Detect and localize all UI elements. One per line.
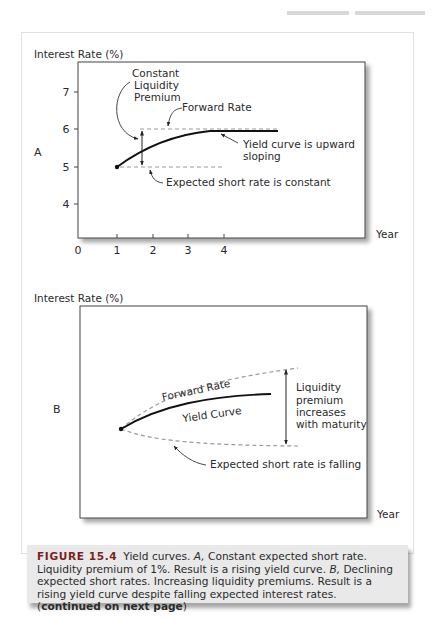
y-tick-4: 4: [63, 198, 70, 211]
panel-a-x-axis-title: Year: [375, 228, 399, 240]
panel-b-x-axis-title: Year: [376, 508, 400, 520]
panel-a-plot-area: [78, 62, 365, 238]
panel-b-expected-short-rate-label: Expected short rate is falling: [210, 458, 361, 470]
panel-a-y-axis-title: Interest Rate (%): [34, 48, 123, 60]
figure-caption: FIGURE 15.4Yield curves. A, Constant exp…: [27, 545, 408, 603]
y-tick-5: 5: [63, 161, 70, 174]
panel-b-y-axis-title: Interest Rate (%): [34, 292, 123, 304]
panel-a-label: A: [34, 146, 42, 159]
x-tick-3: 3: [185, 244, 192, 257]
panel-a: Interest Rate (%) 7 6 5 4 A 0 1 2 3 4 Ye…: [34, 48, 399, 257]
figure-svg: Interest Rate (%) 7 6 5 4 A 0 1 2 3 4 Ye…: [0, 0, 437, 635]
x-tick-2: 2: [150, 244, 157, 257]
panel-a-liquidity-premium-label: Constant Liquidity Premium: [132, 67, 183, 103]
panel-a-start-point: [115, 165, 119, 169]
continued-note: continued on next page: [41, 600, 183, 612]
panel-b-start-point: [119, 427, 123, 431]
y-tick-7: 7: [63, 86, 70, 99]
x-tick-0: 0: [75, 244, 82, 257]
figure-number: FIGURE 15.4: [37, 550, 117, 562]
y-tick-6: 6: [63, 123, 70, 136]
panel-a-forward-rate-label: Forward Rate: [182, 101, 252, 113]
panel-b-label: B: [53, 403, 61, 416]
panel-a-y-ticks: 7 6 5 4: [63, 86, 79, 211]
panel-a-expected-short-rate-label: Expected short rate is constant: [166, 176, 331, 188]
x-tick-1: 1: [114, 244, 121, 257]
x-tick-4: 4: [221, 244, 228, 257]
panel-b: Interest Rate (%) B Year Forward Rate Yi…: [34, 292, 400, 520]
